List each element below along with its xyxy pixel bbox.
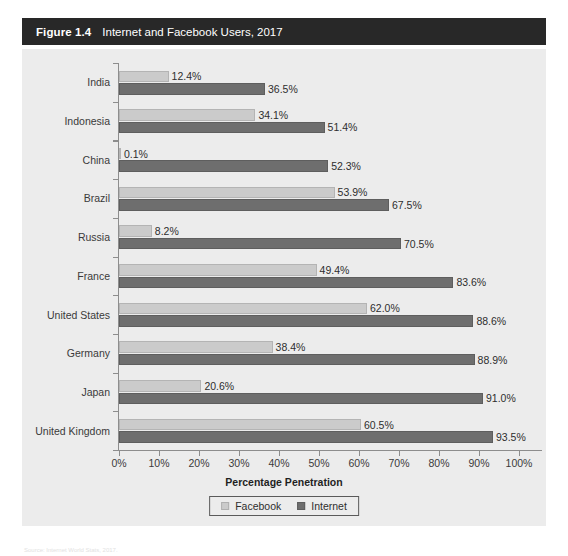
bar-value-label: 12.4%	[172, 70, 202, 82]
bar-internet[interactable]: 70.5%	[119, 238, 401, 250]
category-label: Germany	[67, 347, 110, 359]
value-tick-label: 20%	[188, 457, 209, 469]
bar-value-label: 53.9%	[338, 186, 368, 198]
bar-group: Japan20.6%91.0%	[119, 373, 519, 412]
category-tick	[113, 179, 118, 180]
bar-facebook[interactable]: 60.5%	[119, 419, 361, 431]
value-tick	[199, 451, 200, 456]
value-tick	[399, 451, 400, 456]
category-tick	[113, 218, 118, 219]
category-tick	[113, 450, 118, 451]
bar-facebook[interactable]: 49.4%	[119, 264, 317, 276]
bar-internet[interactable]: 36.5%	[119, 83, 265, 95]
x-axis-title: Percentage Penetration	[22, 476, 546, 488]
bar-value-label: 51.4%	[328, 121, 358, 133]
value-tick	[359, 451, 360, 456]
value-tick-label: 70%	[388, 457, 409, 469]
bar-facebook[interactable]: 62.0%	[119, 303, 367, 315]
source-note: Source: Internet World Stats, 2017.	[24, 547, 118, 553]
category-tick	[113, 63, 118, 64]
value-tick-label: 50%	[308, 457, 329, 469]
bar-value-label: 93.5%	[496, 431, 526, 443]
bar-internet[interactable]: 93.5%	[119, 431, 493, 443]
category-tick	[113, 334, 118, 335]
bar-group: Brazil53.9%67.5%	[119, 179, 519, 218]
bar-internet[interactable]: 83.6%	[119, 277, 453, 289]
bar-group: Russia8.2%70.5%	[119, 218, 519, 257]
bar-group: United Kingdom60.5%93.5%	[119, 411, 519, 450]
bar-value-label: 38.4%	[276, 341, 306, 353]
bar-value-label: 34.1%	[258, 109, 288, 121]
bar-value-label: 88.6%	[476, 315, 506, 327]
category-label: Russia	[78, 231, 110, 243]
category-label: Japan	[81, 386, 110, 398]
category-label: Indonesia	[64, 115, 110, 127]
value-tick	[239, 451, 240, 456]
bar-internet[interactable]: 51.4%	[119, 122, 325, 134]
figure-number: Figure 1.4	[36, 26, 91, 38]
legend-swatch-facebook	[221, 502, 229, 510]
bar-group: Germany38.4%88.9%	[119, 334, 519, 373]
bar-internet[interactable]: 67.5%	[119, 199, 389, 211]
category-label: United States	[47, 309, 110, 321]
bar-group: United States62.0%88.6%	[119, 295, 519, 334]
value-tick-label: 100%	[506, 457, 533, 469]
bar-facebook[interactable]: 8.2%	[119, 225, 152, 237]
value-tick-label: 0%	[111, 457, 126, 469]
bar-value-label: 91.0%	[486, 392, 516, 404]
category-label: China	[83, 154, 110, 166]
bar-group: France49.4%83.6%	[119, 257, 519, 296]
value-tick	[479, 451, 480, 456]
plot-area: India12.4%36.5%Indonesia34.1%51.4%China0…	[119, 63, 519, 450]
bar-value-label: 83.6%	[456, 276, 486, 288]
legend-label-facebook: Facebook	[235, 500, 281, 512]
category-tick	[113, 411, 118, 412]
legend-label-internet: Internet	[311, 500, 347, 512]
bar-facebook[interactable]: 20.6%	[119, 380, 201, 392]
bar-group: China0.1%52.3%	[119, 140, 519, 179]
bar-facebook[interactable]: 12.4%	[119, 71, 169, 83]
bar-internet[interactable]: 88.9%	[119, 354, 475, 366]
value-tick	[159, 451, 160, 456]
legend-item-facebook[interactable]: Facebook	[221, 500, 281, 512]
bar-value-label: 0.1%	[124, 148, 148, 160]
bar-value-label: 8.2%	[155, 225, 179, 237]
bar-value-label: 62.0%	[370, 302, 400, 314]
bar-group: India12.4%36.5%	[119, 63, 519, 102]
bar-group: Indonesia34.1%51.4%	[119, 102, 519, 141]
value-tick-label: 60%	[348, 457, 369, 469]
bar-value-label: 36.5%	[268, 83, 298, 95]
bar-value-label: 88.9%	[478, 354, 508, 366]
bar-facebook[interactable]: 34.1%	[119, 109, 255, 121]
bar-value-label: 67.5%	[392, 199, 422, 211]
value-tick	[519, 451, 520, 456]
value-tick	[119, 451, 120, 456]
figure-caption: Internet and Facebook Users, 2017	[102, 26, 282, 38]
bar-value-label: 49.4%	[320, 264, 350, 276]
bar-facebook[interactable]: 38.4%	[119, 341, 273, 353]
category-tick	[113, 373, 118, 374]
category-label: India	[87, 76, 110, 88]
bar-value-label: 70.5%	[404, 238, 434, 250]
bar-facebook[interactable]: 0.1%	[119, 148, 121, 160]
value-tick-label: 30%	[228, 457, 249, 469]
bar-internet[interactable]: 88.6%	[119, 315, 473, 327]
category-tick	[113, 102, 118, 103]
figure-title-bar: Figure 1.4 Internet and Facebook Users, …	[22, 18, 546, 45]
bar-facebook[interactable]: 53.9%	[119, 187, 335, 199]
value-tick	[279, 451, 280, 456]
legend-item-internet[interactable]: Internet	[297, 500, 347, 512]
bar-value-label: 20.6%	[204, 380, 234, 392]
bar-internet[interactable]: 91.0%	[119, 393, 483, 405]
chart-legend: Facebook Internet	[209, 496, 359, 516]
category-tick	[113, 140, 118, 141]
category-label: Brazil	[84, 192, 110, 204]
chart-panel: India12.4%36.5%Indonesia34.1%51.4%China0…	[22, 49, 546, 526]
category-tick	[113, 257, 118, 258]
category-label: France	[77, 270, 110, 282]
category-tick	[113, 295, 118, 296]
bar-value-label: 52.3%	[331, 160, 361, 172]
category-label: United Kingdom	[35, 425, 110, 437]
bar-internet[interactable]: 52.3%	[119, 160, 328, 172]
value-tick	[319, 451, 320, 456]
